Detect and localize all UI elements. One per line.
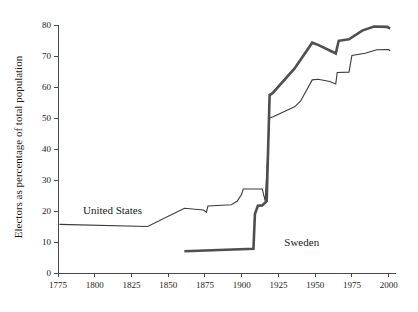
axis-ticks xyxy=(54,25,389,277)
x-tick-label: 1850 xyxy=(159,280,178,290)
y-tick-label: 70 xyxy=(42,51,52,61)
y-tick-label: 10 xyxy=(42,237,52,247)
y-tick-label: 60 xyxy=(42,82,52,92)
y-tick-label: 30 xyxy=(42,175,52,185)
x-tick-label: 1825 xyxy=(122,280,141,290)
y-tick-label: 80 xyxy=(42,20,52,30)
y-tick-label: 20 xyxy=(42,206,52,216)
x-tick-label: 1950 xyxy=(306,280,325,290)
series-line-united-states xyxy=(59,49,390,226)
y-tick-label: 50 xyxy=(42,113,52,123)
series-label-united-states: United States xyxy=(83,204,142,216)
electors-line-chart: Electors as percentage of total populati… xyxy=(0,0,418,312)
axes xyxy=(58,25,396,273)
x-tick-label: 1775 xyxy=(49,280,68,290)
x-tick-label: 1875 xyxy=(196,280,215,290)
chart-page: Electors as percentage of total populati… xyxy=(0,0,418,312)
x-tick-label: 1925 xyxy=(269,280,288,290)
series-line-sweden xyxy=(184,27,390,252)
series-label-sweden: Sweden xyxy=(284,236,319,248)
x-tick-label: 1800 xyxy=(86,280,105,290)
y-tick-label: 40 xyxy=(42,144,52,154)
x-tick-label: 1975 xyxy=(343,280,362,290)
y-axis-title: Electors as percentage of total populati… xyxy=(12,55,24,238)
y-axis-title-group: Electors as percentage of total populati… xyxy=(12,55,24,238)
y-tick-label: 0 xyxy=(47,268,52,278)
x-tick-label: 1900 xyxy=(233,280,252,290)
x-tick-label: 2000 xyxy=(380,280,399,290)
data-series xyxy=(59,27,390,252)
